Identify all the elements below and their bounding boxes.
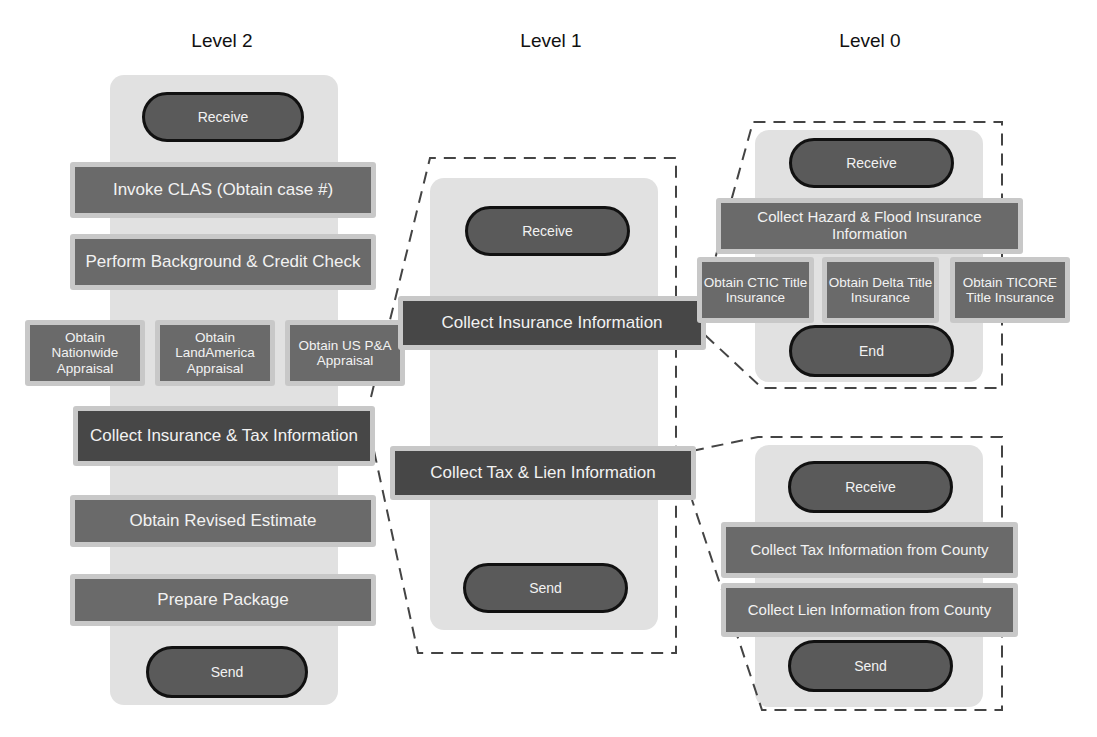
level-2-receive-label: Receive — [198, 109, 249, 125]
level-0-insurance-receive-event[interactable]: Receive — [789, 138, 954, 188]
task-collect-tax-from-county[interactable]: Collect Tax Information from County — [721, 522, 1018, 578]
level-0-insurance-end-event[interactable]: End — [789, 325, 954, 377]
task-collect-hazard-flood-label: Collect Hazard & Flood Insurance Informa… — [721, 203, 1018, 249]
level-2-title: Level 2 — [122, 30, 322, 52]
task-prepare-package[interactable]: Prepare Package — [70, 574, 376, 626]
task-ctic-title-insurance-label: Obtain CTIC Title Insurance — [702, 262, 809, 318]
level-1-receive-label: Receive — [522, 223, 573, 239]
level-1-title: Level 1 — [451, 30, 651, 52]
task-background-credit-check-label: Perform Background & Credit Check — [75, 239, 371, 285]
task-obtain-revised-estimate[interactable]: Obtain Revised Estimate — [70, 495, 376, 547]
task-ticore-title-insurance-label: Obtain TICORE Title Insurance — [955, 262, 1065, 318]
task-obtain-revised-estimate-label: Obtain Revised Estimate — [75, 500, 371, 542]
level-2-send-label: Send — [211, 664, 244, 680]
task-collect-insurance-tax-label: Collect Insurance & Tax Information — [78, 411, 370, 461]
task-delta-title-insurance-label: Obtain Delta Title Insurance — [827, 262, 934, 318]
level-0-insurance-end-label: End — [859, 343, 884, 359]
task-collect-lien-from-county-label: Collect Lien Information from County — [726, 588, 1013, 632]
task-ctic-title-insurance[interactable]: Obtain CTIC Title Insurance — [697, 257, 814, 323]
level-2-receive-event[interactable]: Receive — [142, 92, 304, 142]
task-invoke-clas[interactable]: Invoke CLAS (Obtain case #) — [70, 162, 376, 218]
task-us-pa-appraisal[interactable]: Obtain US P&A Appraisal — [285, 320, 405, 386]
task-collect-insurance-tax[interactable]: Collect Insurance & Tax Information — [73, 406, 375, 466]
task-collect-tax-lien-information-label: Collect Tax & Lien Information — [395, 451, 691, 495]
task-ticore-title-insurance[interactable]: Obtain TICORE Title Insurance — [950, 257, 1070, 323]
level-1-send-label: Send — [529, 580, 562, 596]
level-0-insurance-receive-label: Receive — [846, 155, 897, 171]
task-landamerica-appraisal-label: Obtain LandAmerica Appraisal — [160, 325, 270, 381]
level-0-tax-receive-event[interactable]: Receive — [788, 461, 953, 513]
level-0-tax-send-label: Send — [854, 658, 887, 674]
task-collect-lien-from-county[interactable]: Collect Lien Information from County — [721, 583, 1018, 637]
task-collect-insurance-information[interactable]: Collect Insurance Information — [398, 296, 706, 350]
level-1-receive-event[interactable]: Receive — [465, 206, 630, 256]
task-us-pa-appraisal-label: Obtain US P&A Appraisal — [290, 325, 400, 381]
task-nationwide-appraisal[interactable]: Obtain Nationwide Appraisal — [25, 320, 145, 386]
task-collect-insurance-information-label: Collect Insurance Information — [403, 301, 701, 345]
level-2-send-event[interactable]: Send — [146, 646, 308, 698]
level-0-title: Level 0 — [770, 30, 970, 52]
task-collect-hazard-flood[interactable]: Collect Hazard & Flood Insurance Informa… — [716, 198, 1023, 254]
task-background-credit-check[interactable]: Perform Background & Credit Check — [70, 234, 376, 290]
task-invoke-clas-label: Invoke CLAS (Obtain case #) — [75, 167, 371, 213]
level-1-send-event[interactable]: Send — [463, 563, 628, 613]
task-collect-tax-from-county-label: Collect Tax Information from County — [726, 527, 1013, 573]
task-landamerica-appraisal[interactable]: Obtain LandAmerica Appraisal — [155, 320, 275, 386]
level-0-tax-send-event[interactable]: Send — [788, 640, 953, 692]
level-0-tax-receive-label: Receive — [845, 479, 896, 495]
task-delta-title-insurance[interactable]: Obtain Delta Title Insurance — [822, 257, 939, 323]
task-collect-tax-lien-information[interactable]: Collect Tax & Lien Information — [390, 446, 696, 500]
task-prepare-package-label: Prepare Package — [75, 579, 371, 621]
task-nationwide-appraisal-label: Obtain Nationwide Appraisal — [30, 325, 140, 381]
